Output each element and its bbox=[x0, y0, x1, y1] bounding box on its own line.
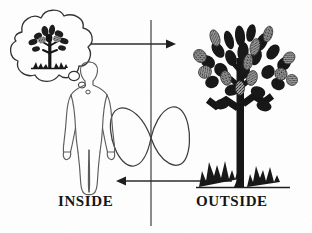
diagram-canvas: INSIDE OUTSIDE bbox=[0, 0, 312, 233]
outside-tree bbox=[191, 23, 300, 188]
human-figure-outline bbox=[63, 62, 114, 195]
infinity-loop bbox=[110, 107, 189, 166]
label-inside: INSIDE bbox=[58, 194, 113, 209]
label-outside: OUTSIDE bbox=[196, 194, 268, 209]
thought-bubble-with-tree bbox=[11, 10, 93, 94]
